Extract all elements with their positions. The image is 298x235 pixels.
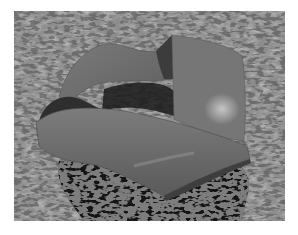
rendered-image (14, 11, 285, 221)
ribbon-scene (14, 11, 285, 221)
